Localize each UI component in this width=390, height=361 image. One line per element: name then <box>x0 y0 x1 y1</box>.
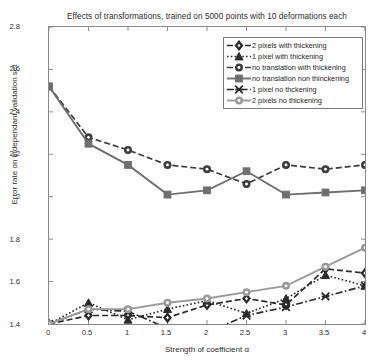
legend-item[interactable]: 1 pixel no thckening <box>226 84 359 95</box>
chart-title: Effects of transformations, trained on 5… <box>48 12 366 21</box>
legend-label: 1 pixel with thickening <box>252 51 323 62</box>
x-tick-label: 0.5 <box>75 328 99 337</box>
legend: 2 pixels with thickening 1 pixel with th… <box>223 37 363 109</box>
legend-label: 2 pixels no thickening <box>252 95 322 106</box>
x-tick-label: 3.5 <box>312 328 336 337</box>
legend-marker-circle <box>226 62 252 73</box>
series-2-pixels-with-thickening <box>49 264 365 324</box>
x-tick-label: 3 <box>273 328 297 337</box>
figure: Effects of transformations, trained on 5… <box>0 0 390 361</box>
legend-marker-square <box>226 73 252 84</box>
x-tick-label: 2 <box>194 328 218 337</box>
y-tick-label: 2.6 <box>0 64 20 73</box>
legend-item[interactable]: 1 pixel with thickening <box>226 51 359 62</box>
y-tick-label: 1.4 <box>0 320 20 329</box>
legend-label: no translation non thinckening <box>252 73 349 84</box>
series-2-pixels-no-thickening <box>49 244 365 324</box>
legend-label: 2 pixels with thickening <box>252 40 327 51</box>
x-tick-label: 0 <box>36 328 60 337</box>
y-tick-label: 2.4 <box>0 107 20 116</box>
legend-item[interactable]: 2 pixels with thickening <box>226 40 359 51</box>
y-tick-label: 2.2 <box>0 149 20 158</box>
legend-marker-triangle <box>226 51 252 62</box>
y-tick-label: 1.8 <box>0 235 20 244</box>
y-tick-label: 2 <box>0 192 20 201</box>
y-tick-label: 1.6 <box>0 277 20 286</box>
y-axis-label: Error rate on independant validation set <box>10 15 19 255</box>
legend-marker-diamond <box>226 40 252 51</box>
legend-label: no translation with thickening <box>252 62 346 73</box>
legend-marker-x <box>226 84 252 95</box>
x-tick-label: 2.5 <box>233 328 257 337</box>
x-tick-label: 1.5 <box>154 328 178 337</box>
x-tick-label: 1 <box>115 328 139 337</box>
legend-marker-circle-open <box>226 95 252 106</box>
x-axis-label: Strength of coefficient α <box>48 345 366 354</box>
y-tick-label: 2.8 <box>0 22 20 31</box>
x-tick-label: 4 <box>352 328 376 337</box>
legend-item[interactable]: no translation non thinckening <box>226 73 359 84</box>
legend-label: 1 pixel no thckening <box>252 84 317 95</box>
legend-item[interactable]: no translation with thickening <box>226 62 359 73</box>
legend-item[interactable]: 2 pixels no thickening <box>226 95 359 106</box>
